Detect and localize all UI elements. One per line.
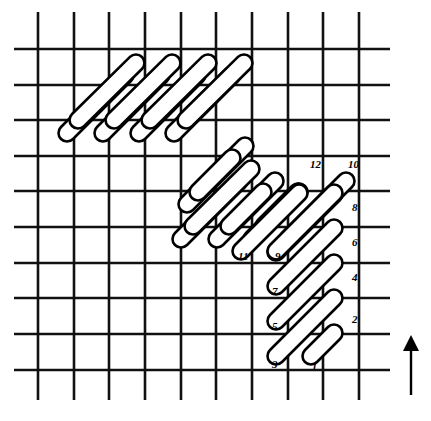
stitch-diagram-canvas: 12108642119753l	[0, 0, 431, 421]
label-12: 12	[310, 158, 322, 170]
label-9: 9	[275, 250, 281, 262]
satin-stitch-layer	[55, 51, 358, 368]
label-3: 3	[271, 358, 278, 370]
label-7: 7	[272, 285, 278, 297]
label-6: 6	[352, 236, 358, 248]
label-8: 8	[352, 201, 358, 213]
label-11: 11	[238, 250, 248, 262]
arrow-head-icon	[403, 335, 419, 351]
label-5: 5	[272, 320, 278, 332]
label-4: 4	[351, 271, 358, 283]
direction-arrow	[403, 335, 419, 395]
label-10: 10	[348, 158, 360, 170]
label-2: 2	[351, 313, 358, 325]
stitch-diagram-root: 12108642119753l	[0, 0, 431, 421]
